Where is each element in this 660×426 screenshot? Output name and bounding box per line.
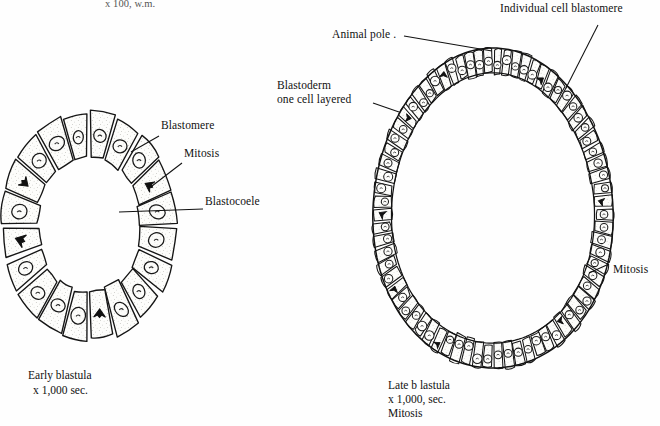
nucleus — [113, 140, 127, 153]
nucleus — [426, 90, 433, 97]
nucleus — [544, 83, 552, 91]
nucleus — [384, 172, 393, 181]
nucleus — [391, 149, 399, 157]
nucleus — [381, 198, 388, 205]
nucleus — [465, 342, 474, 351]
nucleus — [417, 321, 426, 330]
caption-early-blastula-line1: Early blastula — [28, 368, 92, 383]
nucleus — [502, 56, 511, 65]
nucleus — [73, 130, 84, 144]
late-blastula-cells — [372, 48, 614, 370]
label-blastocoele: Blastocoele — [205, 195, 260, 209]
nucleus — [602, 185, 609, 192]
nucleus — [594, 159, 602, 167]
caption-late-blastula-line3: Mitosis — [388, 406, 423, 421]
nucleus — [402, 307, 410, 315]
nucleus — [583, 282, 591, 290]
caption-early-blastula-line2: x 1,000 sec. — [33, 383, 88, 398]
label-blastomere: Blastomere — [161, 119, 214, 133]
nucleus — [473, 354, 482, 363]
nucleus — [583, 137, 591, 145]
nucleus — [399, 126, 407, 134]
nucleus — [598, 236, 606, 244]
nucleus — [409, 102, 418, 111]
nucleus — [555, 87, 562, 94]
caption-late-blastula-line1: Late b lastula — [388, 378, 450, 393]
nucleus — [475, 60, 483, 68]
nucleus — [494, 61, 501, 68]
nucleus — [563, 91, 572, 100]
nucleus — [600, 224, 608, 232]
nucleus — [384, 275, 392, 283]
diagram-page: x 100, w.m. Blastomere Mitosis Blastocoe… — [0, 0, 660, 426]
nucleus — [458, 66, 466, 74]
nucleus — [524, 345, 532, 353]
nucleus — [494, 351, 502, 359]
nucleus — [589, 148, 596, 155]
label-individual-cell-blastomere: Individual cell blastomere — [500, 2, 623, 16]
nucleus — [583, 297, 591, 305]
nucleus — [132, 152, 146, 168]
nucleus — [574, 114, 583, 123]
nucleus — [425, 331, 434, 340]
nucleus — [576, 306, 584, 314]
nucleus — [520, 66, 528, 74]
nucleus — [377, 184, 386, 193]
nucleus — [504, 349, 512, 357]
nucleus — [384, 247, 392, 255]
label-blastoderm: Blastoderm one cell layered — [277, 79, 351, 106]
nucleus — [581, 124, 589, 132]
nucleus — [514, 348, 522, 356]
nucleus — [455, 340, 463, 348]
nucleus — [484, 355, 492, 363]
nucleus — [600, 211, 608, 219]
nucleus — [399, 293, 407, 301]
nucleus — [552, 331, 561, 340]
caption-late-blastula-line2: x 1,000, sec. — [388, 392, 446, 407]
figure-title-clipped: x 100, w.m. — [105, 0, 155, 11]
nucleus — [391, 134, 399, 142]
early-blastula-group — [1, 110, 203, 341]
nucleus — [384, 235, 392, 243]
label-mitosis-left: Mitosis — [184, 147, 219, 161]
nucleus — [596, 248, 605, 257]
nucleus — [532, 336, 541, 345]
nucleus — [569, 103, 576, 110]
nucleus — [412, 312, 420, 320]
blastula-artboard — [0, 0, 660, 426]
nucleus — [599, 171, 607, 179]
nucleus — [542, 333, 550, 341]
nucleus — [385, 260, 393, 268]
nucleus — [467, 61, 475, 69]
nucleus — [430, 76, 439, 85]
nucleus — [381, 223, 389, 231]
leader-individual-cell-blastomere — [566, 25, 598, 88]
label-mitosis-right: Mitosis — [613, 263, 648, 277]
leader-animal-pole — [404, 36, 492, 51]
nucleus — [565, 311, 573, 319]
nucleus — [591, 259, 598, 266]
nucleus — [485, 57, 493, 65]
late-blastula-group — [372, 25, 614, 369]
nucleus — [448, 64, 456, 72]
early-blastula-cells — [1, 110, 178, 341]
nucleus — [446, 336, 453, 343]
leader-blastoderm — [373, 103, 399, 112]
nucleus — [384, 159, 392, 167]
label-animal-pole: Animal pole . — [332, 28, 396, 42]
nucleus — [512, 63, 519, 70]
nucleus — [420, 99, 428, 107]
